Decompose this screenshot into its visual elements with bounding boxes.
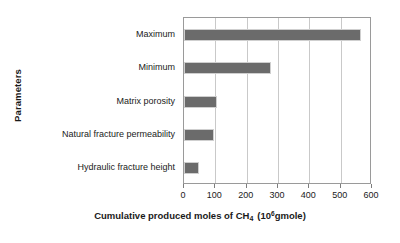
x-tick-400 — [308, 184, 309, 188]
category-label: Minimum — [138, 62, 175, 72]
bar — [184, 162, 199, 174]
x-axis-title-tail: gmole) — [275, 210, 306, 221]
x-tick-label: 500 — [325, 190, 355, 201]
x-tick-300 — [277, 184, 278, 188]
gridline-500 — [341, 18, 342, 183]
x-axis-title: Cumulative produced moles of CH4(106gmol… — [0, 210, 400, 222]
x-tick-label: 0 — [168, 190, 198, 201]
x-axis-title-lead: Cumulative produced moles of CH — [94, 210, 249, 221]
x-tick-100 — [214, 184, 215, 188]
bar — [184, 62, 271, 74]
x-tick-0 — [183, 184, 184, 188]
plot-area — [183, 17, 371, 184]
category-label: Hydraulic fracture height — [77, 162, 175, 172]
x-tick-500 — [340, 184, 341, 188]
x-tick-label: 100 — [199, 190, 229, 201]
bar — [184, 96, 217, 108]
x-tick-label: 400 — [293, 190, 323, 201]
gridline-200 — [247, 18, 248, 183]
gridline-300 — [278, 18, 279, 183]
category-label: Maximum — [136, 29, 175, 39]
x-tick-label: 200 — [231, 190, 261, 201]
category-label: Natural fracture permeability — [62, 129, 175, 139]
bar — [184, 129, 214, 141]
x-tick-200 — [246, 184, 247, 188]
x-axis-title-subscript: 4 — [249, 215, 253, 222]
x-axis-title-open: (10 — [257, 210, 271, 221]
bar-chart-figure: Parameters MaximumMinimumMatrix porosity… — [0, 0, 400, 243]
category-label-group: MaximumMinimumMatrix porosityNatural fra… — [26, 17, 179, 184]
bar — [184, 29, 361, 41]
y-axis-title-text: Parameters — [12, 69, 23, 122]
x-tick-600 — [371, 184, 372, 188]
y-axis-title: Parameters — [8, 0, 26, 190]
category-label: Matrix porosity — [116, 96, 175, 106]
gridline-400 — [309, 18, 310, 183]
x-tick-label: 600 — [356, 190, 386, 201]
x-tick-label: 300 — [262, 190, 292, 201]
